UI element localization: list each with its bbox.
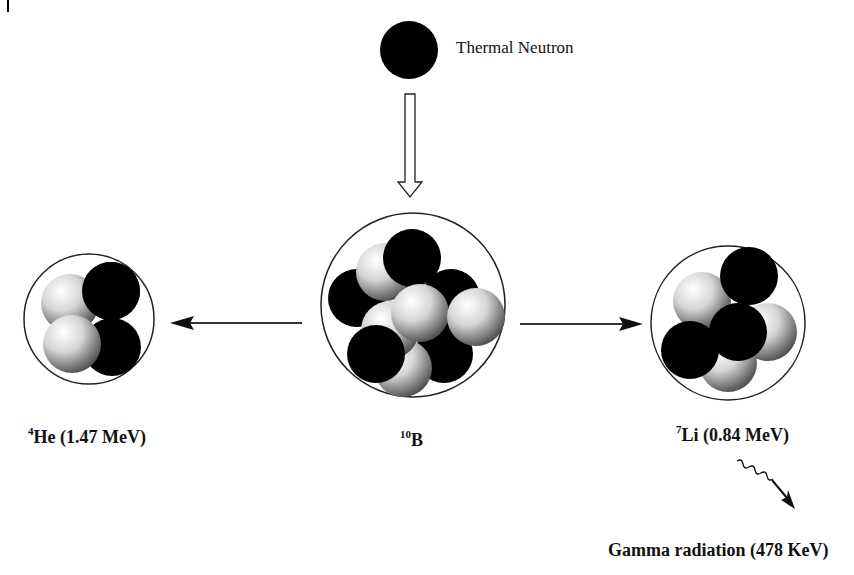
reaction-diagram xyxy=(0,0,854,575)
lithium-energy: (0.84 MeV) xyxy=(699,425,789,445)
lithium-7-label: 7Li (0.84 MeV) xyxy=(676,425,789,446)
helium-4-nucleus xyxy=(24,254,154,384)
lithium-symbol: Li xyxy=(682,425,699,445)
arrow-to-lithium-icon xyxy=(520,317,643,331)
thermal-neutron-label: Thermal Neutron xyxy=(456,38,574,58)
lithium-mass-number: 7 xyxy=(676,423,682,435)
lithium-7-nucleus xyxy=(651,246,805,400)
boron-symbol: B xyxy=(411,430,423,450)
helium-4-label: 4He (1.47 MeV) xyxy=(28,427,146,448)
boron-mass-number: 10 xyxy=(400,428,411,440)
boron-10-nucleus xyxy=(321,213,505,397)
helium-symbol: He xyxy=(34,427,56,447)
gamma-emission-arrow-icon xyxy=(737,460,795,509)
arrow-to-helium-icon xyxy=(170,316,302,330)
incident-arrow-icon xyxy=(398,94,422,197)
thermal-neutron-particle xyxy=(380,21,438,79)
helium-energy: (1.47 MeV) xyxy=(56,427,146,447)
boron-10-label: 10B xyxy=(400,430,423,451)
gamma-radiation-label: Gamma radiation (478 KeV) xyxy=(608,540,828,561)
helium-mass-number: 4 xyxy=(28,425,34,437)
